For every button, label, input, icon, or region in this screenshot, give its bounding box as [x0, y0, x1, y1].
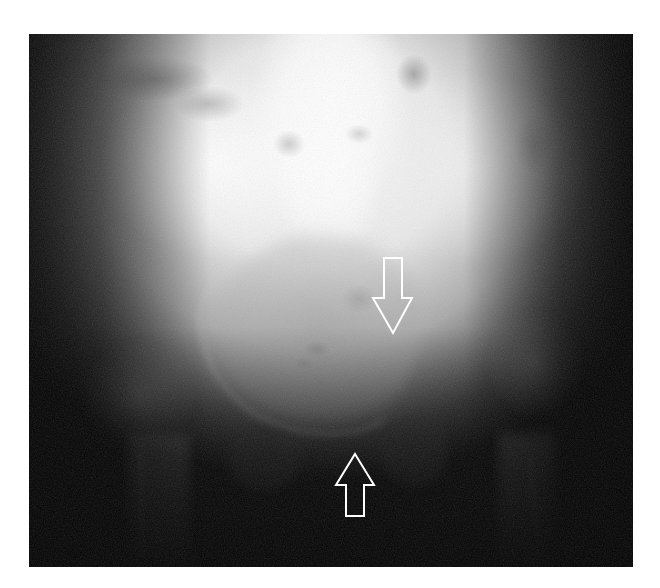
pelvis-radiograph: [29, 34, 633, 567]
xray-image: [29, 34, 633, 567]
